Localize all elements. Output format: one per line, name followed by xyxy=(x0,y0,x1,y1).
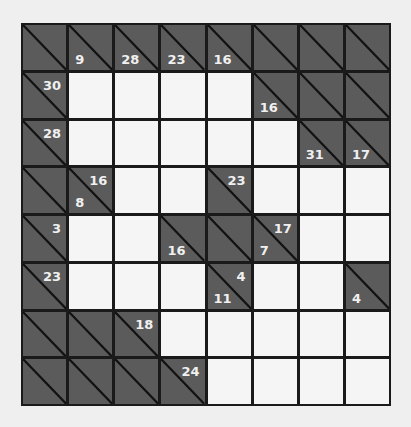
down-clue: 8 xyxy=(75,196,84,209)
diagonal-divider xyxy=(69,359,112,404)
entry-cell[interactable] xyxy=(300,168,343,213)
clue-cell: 16 xyxy=(208,25,251,70)
entry-cell[interactable] xyxy=(346,216,389,261)
entry-cell[interactable] xyxy=(161,73,204,118)
entry-cell[interactable] xyxy=(346,359,389,404)
diagonal-divider xyxy=(254,25,297,70)
clue-cell: 18 xyxy=(115,312,158,357)
clue-cell: 4 xyxy=(346,264,389,309)
clue-cell: 30 xyxy=(23,73,66,118)
clue-cell: 16 xyxy=(254,73,297,118)
entry-cell[interactable] xyxy=(254,264,297,309)
entry-cell[interactable] xyxy=(69,73,112,118)
blocked-cell xyxy=(346,25,389,70)
clue-cell: 168 xyxy=(69,168,112,213)
blocked-cell xyxy=(115,359,158,404)
entry-cell[interactable] xyxy=(161,168,204,213)
diagonal-divider xyxy=(23,359,66,404)
entry-cell[interactable] xyxy=(346,312,389,357)
entry-cell[interactable] xyxy=(254,121,297,166)
entry-cell[interactable] xyxy=(208,312,251,357)
blocked-cell xyxy=(254,25,297,70)
diagonal-divider xyxy=(23,168,66,213)
diagonal-divider xyxy=(346,25,389,70)
down-clue: 11 xyxy=(214,292,232,305)
blocked-cell xyxy=(23,312,66,357)
clue-cell: 9 xyxy=(69,25,112,70)
diagonal-divider xyxy=(346,73,389,118)
entry-cell[interactable] xyxy=(115,168,158,213)
entry-cell[interactable] xyxy=(208,121,251,166)
across-clue: 23 xyxy=(43,270,61,283)
clue-cell: 177 xyxy=(254,216,297,261)
down-clue: 16 xyxy=(167,244,185,257)
across-clue: 3 xyxy=(52,222,61,235)
entry-cell[interactable] xyxy=(254,312,297,357)
entry-cell[interactable] xyxy=(300,216,343,261)
diagonal-divider xyxy=(300,25,343,70)
across-clue: 18 xyxy=(135,318,153,331)
entry-cell[interactable] xyxy=(300,312,343,357)
down-clue: 17 xyxy=(352,148,370,161)
blocked-cell xyxy=(300,73,343,118)
across-clue: 24 xyxy=(181,365,199,378)
down-clue: 16 xyxy=(214,53,232,66)
down-clue: 31 xyxy=(306,148,324,161)
diagonal-divider xyxy=(208,216,251,261)
clue-cell: 28 xyxy=(23,121,66,166)
entry-cell[interactable] xyxy=(254,359,297,404)
blocked-cell xyxy=(69,312,112,357)
down-clue: 9 xyxy=(75,53,84,66)
clue-cell: 16 xyxy=(161,216,204,261)
down-clue: 7 xyxy=(260,244,269,257)
clue-cell: 24 xyxy=(161,359,204,404)
entry-cell[interactable] xyxy=(161,312,204,357)
entry-cell[interactable] xyxy=(69,264,112,309)
entry-cell[interactable] xyxy=(115,264,158,309)
entry-cell[interactable] xyxy=(115,121,158,166)
blocked-cell xyxy=(346,73,389,118)
blocked-cell xyxy=(23,359,66,404)
clue-cell: 23 xyxy=(208,168,251,213)
entry-cell[interactable] xyxy=(300,359,343,404)
down-clue: 16 xyxy=(260,101,278,114)
down-clue: 28 xyxy=(121,53,139,66)
blocked-cell xyxy=(300,25,343,70)
clue-cell: 3 xyxy=(23,216,66,261)
down-clue: 4 xyxy=(352,292,361,305)
diagonal-divider xyxy=(23,312,66,357)
clue-cell: 23 xyxy=(161,25,204,70)
across-clue: 23 xyxy=(228,174,246,187)
across-clue: 30 xyxy=(43,79,61,92)
entry-cell[interactable] xyxy=(254,168,297,213)
blocked-cell xyxy=(23,168,66,213)
entry-cell[interactable] xyxy=(69,121,112,166)
blocked-cell xyxy=(23,25,66,70)
down-clue: 23 xyxy=(167,53,185,66)
clue-cell: 23 xyxy=(23,264,66,309)
diagonal-divider xyxy=(300,73,343,118)
diagonal-divider xyxy=(69,312,112,357)
entry-cell[interactable] xyxy=(208,73,251,118)
entry-cell[interactable] xyxy=(161,121,204,166)
entry-cell[interactable] xyxy=(346,168,389,213)
diagonal-divider xyxy=(23,25,66,70)
across-clue: 17 xyxy=(274,222,292,235)
entry-cell[interactable] xyxy=(69,216,112,261)
entry-cell[interactable] xyxy=(115,216,158,261)
clue-cell: 17 xyxy=(346,121,389,166)
clue-cell: 411 xyxy=(208,264,251,309)
blocked-cell xyxy=(208,216,251,261)
entry-cell[interactable] xyxy=(208,359,251,404)
entry-cell[interactable] xyxy=(115,73,158,118)
clue-cell: 31 xyxy=(300,121,343,166)
entry-cell[interactable] xyxy=(300,264,343,309)
kakuro-board: 92823163016283117168233161772341141824 xyxy=(21,23,391,406)
entry-cell[interactable] xyxy=(161,264,204,309)
across-clue: 16 xyxy=(89,174,107,187)
diagonal-divider xyxy=(115,359,158,404)
blocked-cell xyxy=(69,359,112,404)
clue-cell: 28 xyxy=(115,25,158,70)
across-clue: 28 xyxy=(43,127,61,140)
across-clue: 4 xyxy=(237,270,246,283)
